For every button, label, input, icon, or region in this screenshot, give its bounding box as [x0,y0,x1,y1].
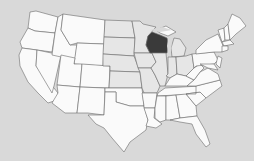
state-arizona[interactable] [52,85,80,113]
state-north-dakota[interactable] [104,20,135,38]
state-michigan[interactable] [171,38,186,57]
state-kansas[interactable] [109,71,142,88]
state-florida[interactable] [170,116,210,147]
state-montana[interactable] [61,14,105,45]
state-arkansas[interactable] [142,93,157,108]
state-new-york[interactable] [196,34,224,54]
state-south-dakota[interactable] [103,37,135,56]
state-colorado[interactable] [80,64,110,88]
us-map [0,0,254,161]
state-maine[interactable] [228,14,246,40]
state-new-mexico[interactable] [77,87,105,115]
state-mississippi[interactable] [155,96,166,122]
state-connecticut[interactable] [222,46,228,52]
state-wyoming[interactable] [74,43,104,66]
